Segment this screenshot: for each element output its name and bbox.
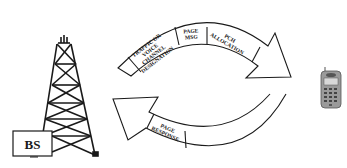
mobile-phone-icon <box>321 67 341 108</box>
segment-page-msg: PAGE MSG <box>183 27 199 40</box>
bs-label: BS <box>25 137 41 152</box>
base-station-box: BS <box>13 131 52 157</box>
paging-diagram: BS TRAFFIC OR VOICE CHANNEL DESIGNATION … <box>0 0 347 168</box>
return-arrow <box>113 94 286 148</box>
svg-text:MSG: MSG <box>185 34 199 41</box>
